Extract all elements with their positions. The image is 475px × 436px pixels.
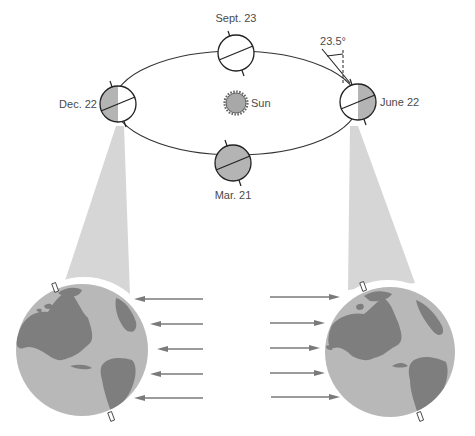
tilt-angle-label: 23.5° xyxy=(320,35,346,47)
mar-label: Mar. 21 xyxy=(215,189,252,201)
earth-dec-enlarged xyxy=(14,277,154,421)
sept-label: Sept. 23 xyxy=(216,12,257,24)
sun-label: Sun xyxy=(251,97,271,109)
earth-mar-icon xyxy=(215,140,251,186)
earth-sept-icon xyxy=(218,31,254,76)
tilt-angle-annotation xyxy=(322,49,350,83)
earth-dec-icon xyxy=(100,81,136,127)
sun-icon xyxy=(225,92,248,115)
earth-june-enlarged xyxy=(319,280,457,421)
earth-june-icon xyxy=(340,79,376,125)
dec-projection-cone xyxy=(62,126,130,296)
orbit-diagram: Sun Sept. 23 Mar. 21 Dec. 22 June 22 23.… xyxy=(0,0,475,436)
june-label: June 22 xyxy=(380,96,419,108)
dec-label: Dec. 22 xyxy=(59,98,97,110)
june-projection-cone xyxy=(348,126,415,290)
